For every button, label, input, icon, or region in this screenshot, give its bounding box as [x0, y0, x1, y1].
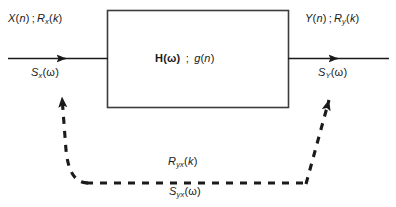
signal-flow-diagram: X(n);Rx(k) Y(n);Ry(k) H(ω) ; g(n) Sx(ω) … — [0, 0, 396, 207]
output-psd-label: SY(ω) — [318, 66, 347, 78]
cross-spectrum-label: Syx(ω) — [169, 185, 201, 197]
system-block-label: H(ω) ; g(n) — [155, 52, 215, 64]
cross-correlation-label: Ryx(k) — [168, 155, 198, 167]
input-psd-label: Sx(ω) — [31, 66, 59, 78]
output-signal-label: Y(n);Ry(k) — [305, 12, 359, 24]
input-signal-label: X(n);Rx(k) — [8, 12, 62, 24]
cross-correlation-right-branch — [306, 100, 329, 184]
diagram-canvas — [0, 0, 396, 207]
cross-correlation-left-branch — [62, 97, 88, 183]
